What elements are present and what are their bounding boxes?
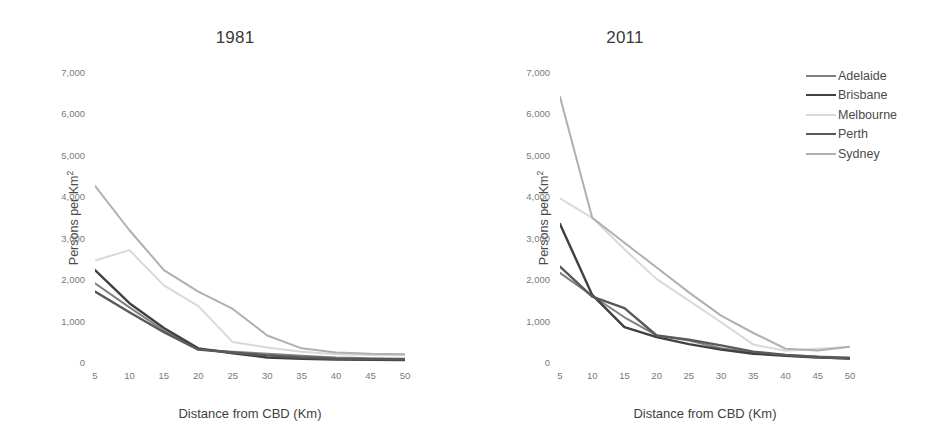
legend-item-perth[interactable]: Perth [806, 125, 936, 145]
x-tick-label: 35 [296, 370, 307, 381]
panel-title-2011: 2011 [470, 28, 780, 48]
x-tick-label: 15 [159, 370, 170, 381]
series-line-brisbane [560, 224, 850, 358]
x-tick-label: 25 [227, 370, 238, 381]
legend-label: Melbourne [838, 109, 897, 122]
x-tick-label: 25 [684, 370, 695, 381]
y-tick-label: 7,000 [526, 67, 550, 78]
y-tick-label: 2,000 [526, 274, 550, 285]
legend-label: Adelaide [838, 70, 887, 83]
y-tick-label: 2,000 [61, 274, 85, 285]
figure-two-panel-density-chart: 1981 Persons per Km2 01,0002,0003,0004,0… [0, 0, 941, 435]
y-tick-label: 7,000 [61, 67, 85, 78]
x-tick-label: 20 [193, 370, 204, 381]
chart-legend: AdelaideBrisbaneMelbournePerthSydney [806, 66, 936, 164]
x-axis-label-right: Distance from CBD (Km) [560, 406, 850, 421]
x-tick-label: 15 [619, 370, 630, 381]
legend-label: Sydney [838, 148, 880, 161]
legend-item-sydney[interactable]: Sydney [806, 144, 936, 164]
legend-swatch-brisbane [806, 94, 836, 96]
series-line-sydney [95, 186, 405, 354]
x-tick-label: 30 [262, 370, 273, 381]
x-tick-label: 5 [92, 370, 97, 381]
x-axis-label-left: Distance from CBD (Km) [95, 406, 405, 421]
y-tick-label: 1,000 [61, 315, 85, 326]
x-tick-label: 35 [748, 370, 759, 381]
y-tick-label: 0 [545, 357, 550, 368]
y-tick-label: 5,000 [526, 149, 550, 160]
legend-item-adelaide[interactable]: Adelaide [806, 66, 936, 86]
legend-swatch-sydney [806, 153, 836, 155]
series-line-melbourne [560, 198, 850, 350]
series-line-adelaide [560, 273, 850, 358]
y-tick-label: 6,000 [526, 108, 550, 119]
legend-label: Brisbane [838, 89, 887, 102]
x-tick-label: 10 [587, 370, 598, 381]
x-tick-label: 50 [400, 370, 411, 381]
x-tick-label: 40 [780, 370, 791, 381]
plot-area-1981: 01,0002,0003,0004,0005,0006,0007,000 510… [95, 72, 405, 362]
y-tick-label: 5,000 [61, 149, 85, 160]
x-tick-label: 45 [812, 370, 823, 381]
series-line-perth [95, 292, 405, 360]
legend-item-brisbane[interactable]: Brisbane [806, 86, 936, 106]
y-tick-label: 4,000 [61, 191, 85, 202]
x-tick-label: 45 [365, 370, 376, 381]
y-tick-label: 4,000 [526, 191, 550, 202]
legend-swatch-melbourne [806, 114, 836, 116]
legend-swatch-adelaide [806, 75, 836, 77]
y-tick-label: 1,000 [526, 315, 550, 326]
y-axis-label-right: Persons per Km2 [535, 170, 551, 264]
x-tick-label: 30 [716, 370, 727, 381]
y-tick-label: 3,000 [526, 232, 550, 243]
plot-svg-1981 [95, 72, 405, 362]
x-tick-label: 5 [557, 370, 562, 381]
y-tick-label: 0 [80, 357, 85, 368]
legend-item-melbourne[interactable]: Melbourne [806, 105, 936, 125]
legend-label: Perth [838, 128, 868, 141]
x-tick-label: 10 [124, 370, 135, 381]
series-line-melbourne [95, 250, 405, 355]
chart-panel-1981: 1981 Persons per Km2 01,0002,0003,0004,0… [0, 0, 470, 435]
legend-swatch-perth [806, 133, 836, 135]
x-tick-label: 40 [331, 370, 342, 381]
y-axis-label-left: Persons per Km2 [65, 170, 81, 264]
y-tick-label: 3,000 [61, 232, 85, 243]
y-tick-label: 6,000 [61, 108, 85, 119]
panel-title-1981: 1981 [0, 28, 470, 48]
x-tick-label: 50 [845, 370, 856, 381]
x-tick-label: 20 [651, 370, 662, 381]
